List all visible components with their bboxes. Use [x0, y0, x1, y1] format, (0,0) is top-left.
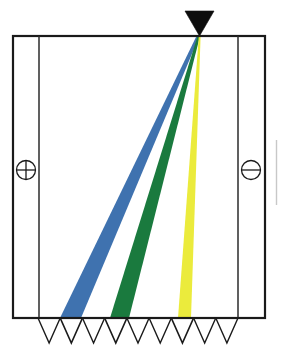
cathode-symbol-group — [242, 161, 261, 180]
detector-cell-hit — [171, 318, 193, 343]
detector-array — [38, 318, 238, 343]
detector-cell — [38, 318, 60, 343]
beam-group — [60, 36, 201, 318]
detector-cell-hit — [105, 318, 127, 343]
detector-cell — [82, 318, 104, 343]
beam-separation-figure — [0, 0, 281, 353]
detector-cell — [216, 318, 238, 343]
beam-source-triangle-icon — [185, 11, 214, 36]
detector-cell — [194, 318, 216, 343]
detector-cell-hit — [60, 318, 82, 343]
figure-canvas — [0, 0, 281, 353]
detector-cell — [149, 318, 171, 343]
anode-symbol-group — [17, 161, 36, 180]
detector-cell — [127, 318, 149, 343]
